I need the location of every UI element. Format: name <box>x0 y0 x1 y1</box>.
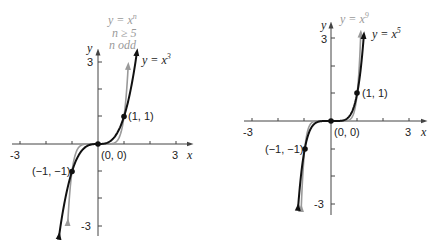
y-tick-label-3: 3 <box>87 56 93 68</box>
point-1-1 <box>354 90 360 96</box>
left-graph: -3 3 x 3 -3 y (1, 1) (0, 0) (−1, −1) y =… <box>10 12 193 236</box>
point-label-neg1-neg1: (−1, −1) <box>265 143 304 155</box>
y-axis-label: y <box>86 41 93 55</box>
y-tick-label-3: 3 <box>321 33 327 45</box>
right-graph: -3 3 x 3 -3 y (1, 1) (0, 0) (−1, −1) y =… <box>243 11 427 215</box>
x-tick-label-3: 3 <box>405 126 411 138</box>
y-tick-label-neg3: -3 <box>81 220 91 232</box>
point-label-1-1: (1, 1) <box>128 110 154 122</box>
point-label-0-0: (0, 0) <box>334 126 360 138</box>
point-label-0-0: (0, 0) <box>101 149 127 161</box>
point-0-0 <box>328 118 334 124</box>
svg-text:n odd: n odd <box>109 38 137 52</box>
point-0-0 <box>95 141 101 147</box>
svg-text:y = xn: y = xn <box>107 12 137 27</box>
curve-label-x-cubed: y = x3 <box>141 52 171 67</box>
figure: -3 3 x 3 -3 y (1, 1) (0, 0) (−1, −1) y =… <box>0 0 437 244</box>
point-label-1-1: (1, 1) <box>362 87 388 99</box>
x-tick-label-neg3: -3 <box>243 126 253 138</box>
x-tick-label-neg3: -3 <box>10 149 20 161</box>
x-axis-label: x <box>186 148 193 162</box>
curve-label-x-n: y = xn n ≥ 5 n odd <box>107 12 137 52</box>
curve-label-x-5: y = x5 <box>371 26 401 41</box>
point-1-1 <box>121 114 127 120</box>
x-axis-label: x <box>420 125 427 139</box>
point-label-neg1-neg1: (−1, −1) <box>32 165 71 177</box>
y-axis-label: y <box>320 18 327 32</box>
y-tick-label-neg3: -3 <box>314 198 324 210</box>
curve-label-x-9: y = x9 <box>339 11 369 26</box>
x-tick-label-3: 3 <box>172 149 178 161</box>
